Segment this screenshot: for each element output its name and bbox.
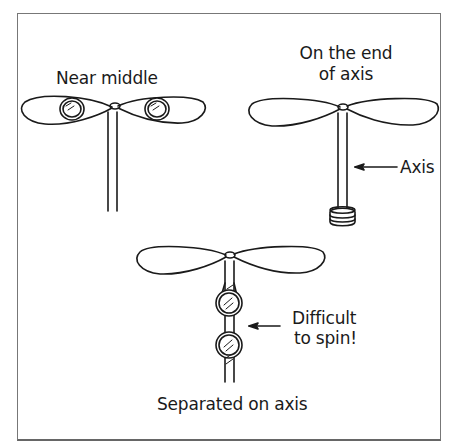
label-near-middle: Near middle — [56, 69, 158, 88]
label-separated: Separated on axis — [157, 395, 307, 414]
weight-lower — [216, 332, 242, 358]
arrow-axis-head — [355, 164, 364, 170]
propeller-blade-left — [249, 99, 340, 127]
callout-axis: Axis — [400, 158, 434, 177]
label-end-of-axis-line1: On the end — [296, 44, 396, 63]
propeller-blade-right — [234, 246, 325, 273]
propeller-blade-left — [137, 247, 226, 275]
weight-upper — [216, 290, 242, 316]
callout-difficult-line2: to spin! — [294, 329, 357, 348]
propeller-near-middle — [22, 96, 206, 211]
arrow-difficult-head — [249, 323, 258, 329]
propeller-blade-right — [347, 98, 438, 125]
label-end-of-axis-line2: of axis — [296, 65, 396, 84]
callout-difficult-line1: Difficult — [292, 309, 356, 328]
